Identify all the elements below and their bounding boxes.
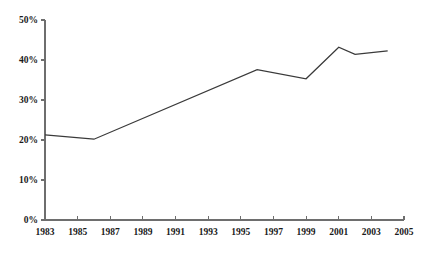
y-tick-label: 30% — [19, 95, 38, 105]
line-chart: 0%10%20%30%40%50% 1983198519871989199119… — [0, 0, 423, 255]
x-tick-label: 1999 — [297, 227, 316, 237]
x-tick-label: 1993 — [199, 227, 218, 237]
x-tick-label: 2005 — [395, 227, 414, 237]
y-tick-label: 20% — [19, 135, 38, 145]
x-tick-label: 1985 — [68, 227, 87, 237]
x-tick-label: 1989 — [133, 227, 152, 237]
chart-canvas: 0%10%20%30%40%50% 1983198519871989199119… — [0, 0, 423, 255]
x-tick-label: 1995 — [231, 227, 250, 237]
x-tick-label: 1991 — [166, 227, 185, 237]
x-axis: 1983198519871989199119931995199719992001… — [36, 216, 414, 237]
x-tick-label: 1997 — [264, 227, 283, 237]
series-line — [45, 47, 388, 139]
y-axis: 0%10%20%30%40%50% — [19, 15, 45, 225]
x-tick-label: 2003 — [362, 227, 381, 237]
data-series-group — [45, 47, 388, 139]
y-tick-label: 40% — [19, 55, 38, 65]
x-tick-label: 1987 — [101, 227, 120, 237]
y-tick-label: 50% — [19, 15, 38, 25]
x-tick-label: 2001 — [329, 227, 348, 237]
x-tick-label: 1983 — [36, 227, 55, 237]
y-tick-label: 0% — [24, 215, 38, 225]
y-tick-label: 10% — [19, 175, 38, 185]
